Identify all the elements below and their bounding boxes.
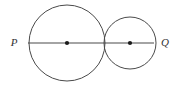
point-label-p: P xyxy=(10,36,18,48)
geometry-figure: P Q xyxy=(0,0,179,86)
small-circle-center-dot xyxy=(128,41,132,45)
point-label-q: Q xyxy=(161,36,169,48)
large-circle-center-dot xyxy=(65,41,69,45)
figure-canvas: P Q xyxy=(0,0,179,86)
